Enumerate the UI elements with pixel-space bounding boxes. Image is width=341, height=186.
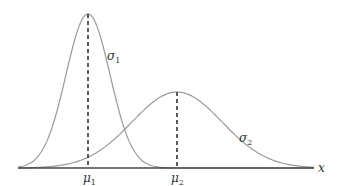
mu2-label: μ2 <box>171 172 184 186</box>
normal-distributions-chart: μ1 μ2 σ1 σ2 x <box>0 0 341 186</box>
mu1-label: μ1 <box>83 172 96 186</box>
x-axis-label: x <box>318 162 325 174</box>
sigma1-label: σ1 <box>107 50 120 65</box>
sigma2-label: σ2 <box>239 132 252 147</box>
curve-sigma2 <box>18 92 314 168</box>
curve-sigma1 <box>18 14 314 168</box>
plot-area <box>0 0 341 186</box>
